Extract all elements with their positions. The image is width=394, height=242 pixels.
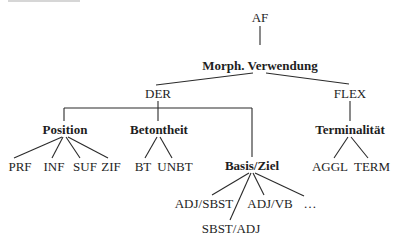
node-flex: FLEX xyxy=(334,87,367,100)
edge-betontheit-unbt xyxy=(160,137,172,158)
node-basis-ziel: Basis/Ziel xyxy=(225,159,279,172)
node-der: DER xyxy=(145,87,171,100)
node-sbst-adj: SBST/ADJ xyxy=(202,222,261,235)
node-adj-sbst: ADJ/SBST xyxy=(175,197,234,210)
node-suf: SUF xyxy=(73,160,97,173)
node-unbt: UNBT xyxy=(157,160,192,173)
edge-morph-der xyxy=(156,73,253,85)
node-ellipsis: … xyxy=(304,197,317,210)
node-prf: PRF xyxy=(8,160,31,173)
node-term: TERM xyxy=(354,160,390,173)
node-position: Position xyxy=(43,123,88,136)
edge-basis-adj-sbst xyxy=(212,173,249,195)
node-aggl: AGGL xyxy=(312,160,348,173)
edge-betontheit-bt xyxy=(145,137,157,158)
edge-terminalitaet-aggl xyxy=(334,137,348,158)
edge-morph-flex xyxy=(266,73,349,84)
edge-terminalitaet-term xyxy=(351,137,368,158)
node-morph-verwendung: Morph. Verwendung xyxy=(202,59,318,72)
node-adj-vb: ADJ/VB xyxy=(247,197,293,210)
node-terminalitaet: Terminalität xyxy=(315,123,385,136)
node-betontheit: Betontheit xyxy=(130,123,188,136)
node-zif: ZIF xyxy=(101,160,121,173)
node-bt: BT xyxy=(135,160,152,173)
node-af: AF xyxy=(252,11,269,24)
node-inf: INF xyxy=(44,160,65,173)
edge-position-zif xyxy=(68,137,108,158)
edge-position-prf xyxy=(14,137,62,158)
